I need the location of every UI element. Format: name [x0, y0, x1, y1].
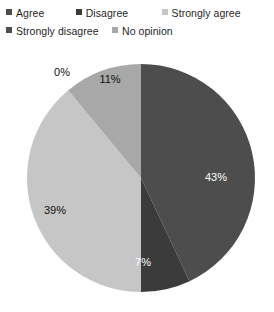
- square-swatch-icon: [162, 9, 168, 15]
- pie-chart-svg: 43% 7% 39% 0% 11%: [0, 44, 274, 312]
- pie-label-disagree: 7%: [135, 256, 151, 268]
- legend-label-no-opinion: No opinion: [122, 22, 173, 40]
- legend-row-2: Strongly disagree No opinion: [0, 21, 274, 39]
- chart-legend: Agree Disagree Strongly agree Strongly d…: [0, 0, 274, 39]
- legend-label-strongly-disagree: Strongly disagree: [16, 22, 99, 40]
- legend-item-agree[interactable]: Agree: [6, 3, 44, 21]
- legend-item-strongly-agree[interactable]: Strongly agree: [162, 3, 241, 21]
- square-swatch-icon: [6, 9, 12, 15]
- legend-row-1: Agree Disagree Strongly agree: [0, 3, 274, 21]
- pie-label-agree: 43%: [205, 171, 227, 183]
- legend-item-strongly-disagree[interactable]: Strongly disagree: [6, 21, 99, 39]
- legend-item-disagree[interactable]: Disagree: [76, 3, 128, 21]
- square-swatch-icon: [76, 9, 82, 15]
- legend-label-agree: Agree: [16, 4, 44, 22]
- pie-chart: 43% 7% 39% 0% 11%: [0, 44, 274, 312]
- pie-label-strongly-disagree: 0%: [54, 66, 70, 78]
- legend-label-disagree: Disagree: [86, 4, 128, 22]
- pie-label-strongly-agree: 39%: [44, 204, 66, 216]
- square-swatch-icon: [112, 27, 118, 33]
- square-swatch-icon: [6, 27, 12, 33]
- legend-label-strongly-agree: Strongly agree: [172, 4, 241, 22]
- pie-label-no-opinion: 11%: [99, 73, 120, 85]
- legend-item-no-opinion[interactable]: No opinion: [112, 21, 173, 39]
